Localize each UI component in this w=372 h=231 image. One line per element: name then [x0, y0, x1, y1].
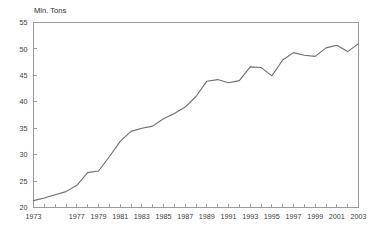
x-axis-tick-labels: 1973197719791981198319851987198919911993…	[26, 212, 367, 221]
x-tick-label: 1977	[69, 212, 85, 221]
x-tick-label: 2001	[329, 212, 345, 221]
y-tick-label: 50	[20, 45, 28, 54]
x-tick-label: 1997	[286, 212, 302, 221]
y-tick-label: 55	[20, 18, 28, 27]
x-tick-label: 1991	[221, 212, 237, 221]
chart-container: Mln. Tons 2025303540455055 1973197719791…	[0, 0, 372, 231]
x-tick-label: 1979	[91, 212, 107, 221]
x-tick-label: 1985	[156, 212, 172, 221]
y-axis-tick-labels: 2025303540455055	[20, 18, 28, 212]
x-tick-label: 1987	[177, 212, 193, 221]
x-axis-ticks	[34, 204, 359, 208]
x-tick-label: 1993	[242, 212, 258, 221]
data-series-line	[34, 44, 359, 201]
x-tick-label: 2003	[351, 212, 367, 221]
x-tick-label: 1999	[307, 212, 323, 221]
y-tick-label: 45	[20, 71, 28, 80]
x-tick-label: 1983	[134, 212, 150, 221]
y-tick-label: 25	[20, 177, 28, 186]
line-chart: Mln. Tons 2025303540455055 1973197719791…	[0, 0, 372, 231]
x-tick-label: 1995	[264, 212, 280, 221]
x-tick-label: 1989	[199, 212, 215, 221]
y-tick-label: 30	[20, 150, 28, 159]
x-tick-label: 1981	[112, 212, 128, 221]
y-tick-label: 35	[20, 124, 28, 133]
y-axis-title: Mln. Tons	[34, 6, 67, 15]
x-tick-label: 1973	[26, 212, 42, 221]
y-tick-label: 40	[20, 97, 28, 106]
y-axis-ticks	[34, 23, 38, 208]
